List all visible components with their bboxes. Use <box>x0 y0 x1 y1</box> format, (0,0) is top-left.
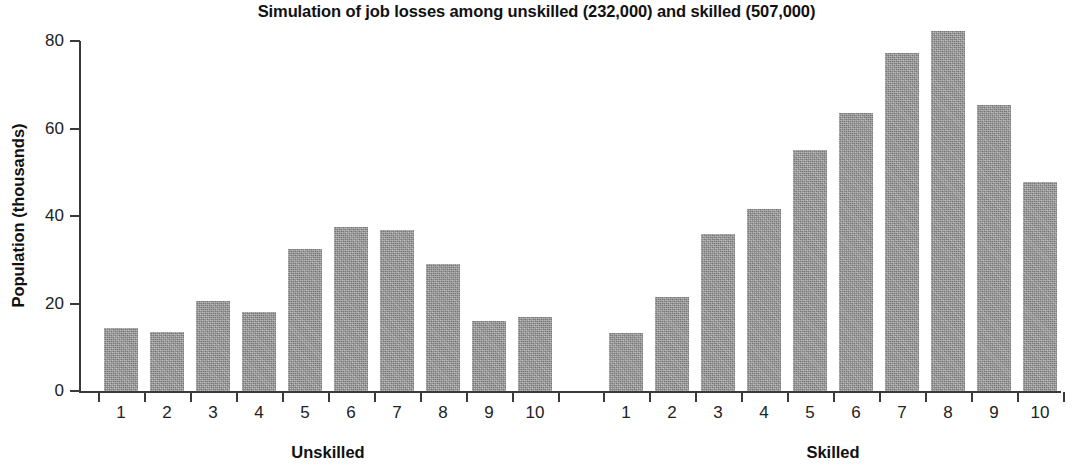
bar <box>472 321 506 391</box>
x-axis-tick-label: 8 <box>928 404 968 423</box>
x-axis-tick <box>282 392 284 402</box>
x-axis-line <box>79 391 1061 393</box>
x-axis-tick <box>1017 392 1019 402</box>
y-axis-tick <box>70 215 80 217</box>
bar <box>839 113 873 391</box>
x-axis-tick-label: 9 <box>974 404 1014 423</box>
bar <box>931 31 965 391</box>
x-axis-tick <box>1063 392 1065 402</box>
x-axis-tick <box>787 392 789 402</box>
x-axis-tick <box>98 392 100 402</box>
x-axis-tick-label: 3 <box>193 404 233 423</box>
y-axis-tick <box>70 40 80 42</box>
y-axis-tick <box>70 303 80 305</box>
x-axis-tick <box>190 392 192 402</box>
y-axis-tick-label: 40 <box>20 207 64 224</box>
bar <box>885 53 919 391</box>
x-axis-tick-label: 8 <box>423 404 463 423</box>
group-label-unskilled: Unskilled <box>104 443 552 462</box>
bar <box>196 301 230 391</box>
x-axis-tick-label: 6 <box>331 404 371 423</box>
x-axis-tick <box>374 392 376 402</box>
chart-title: Simulation of job losses among unskilled… <box>0 2 1073 21</box>
x-axis-tick-label: 7 <box>377 404 417 423</box>
bar <box>380 230 414 391</box>
x-axis-tick-label: 7 <box>882 404 922 423</box>
y-axis-tick <box>70 128 80 130</box>
bar <box>793 150 827 391</box>
group-label-skilled: Skilled <box>609 443 1057 462</box>
x-axis-tick <box>603 392 605 402</box>
x-axis-tick <box>144 392 146 402</box>
bar-chart-figure: Simulation of job losses among unskilled… <box>0 0 1073 474</box>
x-axis-tick-label: 6 <box>836 404 876 423</box>
x-axis-tick-label: 10 <box>1020 404 1060 423</box>
x-axis-tick <box>879 392 881 402</box>
x-axis-tick <box>328 392 330 402</box>
x-axis-tick <box>695 392 697 402</box>
x-axis-tick <box>833 392 835 402</box>
bar <box>334 227 368 391</box>
bar <box>655 297 689 392</box>
x-axis-tick <box>741 392 743 402</box>
bar <box>104 328 138 391</box>
x-axis-tick <box>649 392 651 402</box>
x-axis-tick <box>236 392 238 402</box>
y-axis-tick <box>70 390 80 392</box>
bar <box>288 249 322 391</box>
x-axis-tick <box>466 392 468 402</box>
y-axis-tick-label: 0 <box>20 382 64 399</box>
x-axis-tick-label: 1 <box>101 404 141 423</box>
x-axis-tick <box>971 392 973 402</box>
x-axis-tick-label: 4 <box>239 404 279 423</box>
x-axis-tick-label: 3 <box>698 404 738 423</box>
bar <box>701 234 735 391</box>
x-axis-tick-label: 5 <box>790 404 830 423</box>
y-axis-tick-label: 60 <box>20 120 64 137</box>
x-axis-tick <box>925 392 927 402</box>
x-axis-tick-label: 2 <box>147 404 187 423</box>
x-axis-tick-label: 5 <box>285 404 325 423</box>
bar <box>609 333 643 391</box>
y-axis-tick-label: 20 <box>20 295 64 312</box>
x-axis-tick <box>558 392 560 402</box>
x-axis-tick-label: 9 <box>469 404 509 423</box>
x-axis-tick-label: 4 <box>744 404 784 423</box>
x-axis-tick <box>420 392 422 402</box>
bar <box>242 312 276 391</box>
bar <box>150 332 184 392</box>
x-axis-tick <box>512 392 514 402</box>
bar <box>1023 182 1057 391</box>
bar <box>977 105 1011 391</box>
bar <box>426 264 460 391</box>
bar <box>747 209 781 391</box>
y-axis-tick-label: 80 <box>20 32 64 49</box>
x-axis-tick-label: 2 <box>652 404 692 423</box>
x-axis-tick-label: 1 <box>606 404 646 423</box>
x-axis-tick-label: 10 <box>515 404 555 423</box>
bar <box>518 317 552 391</box>
